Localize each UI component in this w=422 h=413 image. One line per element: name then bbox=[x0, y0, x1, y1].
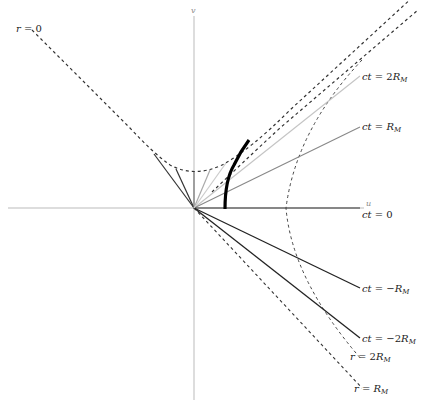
r-0-curve bbox=[32, 0, 418, 192]
label-r-0: r = 0 bbox=[16, 23, 42, 34]
spacetime-diagram: v u r = 0 ct = 2RM ct = RM ct = 0 ct = −… bbox=[0, 0, 422, 413]
label-r-rm: r = RM bbox=[354, 383, 389, 396]
slice-ct-2rm bbox=[194, 76, 360, 208]
label-ct-neg-rm: ct = −RM bbox=[362, 283, 410, 296]
v-axis-label: v bbox=[191, 6, 196, 15]
interior-slices bbox=[154, 154, 226, 208]
r-rm-curve bbox=[194, 208, 362, 388]
label-ct-rm: ct = RM bbox=[362, 121, 402, 134]
u-axis-label: u bbox=[366, 199, 371, 208]
label-ct-2rm: ct = 2RM bbox=[362, 71, 408, 84]
slice-ct-neg-2rm bbox=[194, 208, 360, 338]
label-ct-neg-2rm: ct = −2RM bbox=[362, 333, 417, 346]
label-r-2rm: r = 2RM bbox=[350, 351, 391, 364]
slice-ct-rm bbox=[194, 127, 360, 208]
slice-ct-neg-rm bbox=[194, 208, 360, 288]
label-ct-0: ct = 0 bbox=[362, 209, 393, 220]
